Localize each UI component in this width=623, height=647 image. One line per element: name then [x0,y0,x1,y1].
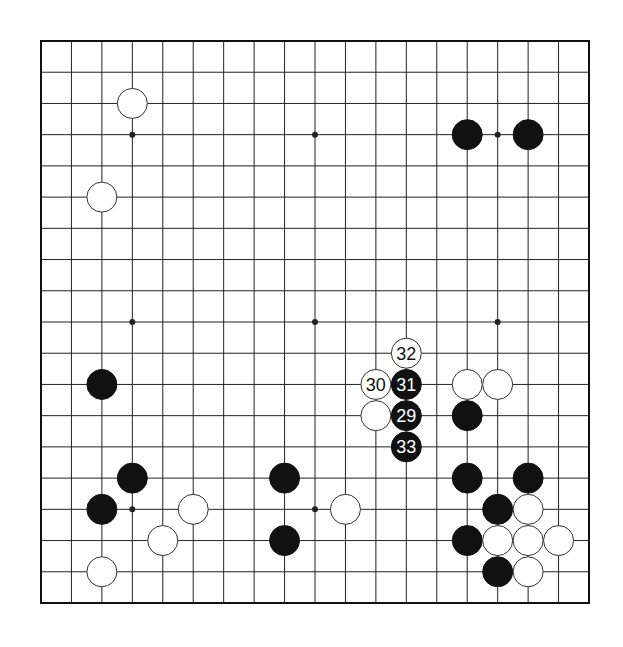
stone-circle [330,494,360,524]
stone-circle [452,369,482,399]
stone-circle [483,369,513,399]
stone-circle [148,526,178,556]
stone-circle [513,557,543,587]
star-point [129,132,135,138]
move-number-label: 32 [396,344,416,364]
stone-circle [452,401,482,431]
black-stone: 33 [391,432,421,462]
stone-circle [87,557,117,587]
stone-circle [452,526,482,556]
white-stone [483,369,513,399]
stone-circle [117,88,147,118]
star-point [129,506,135,512]
star-point [495,319,501,325]
black-stone: 29 [391,401,421,431]
stone-circle [513,526,543,556]
black-stone [87,369,117,399]
go-board: 3230312933 [0,0,623,647]
white-stone [513,494,543,524]
black-stone [513,120,543,150]
stone-circle [483,494,513,524]
black-stone [452,401,482,431]
star-point [312,506,318,512]
stone-circle [513,463,543,493]
move-number-label: 33 [396,437,416,457]
stone-circle [87,369,117,399]
white-stone: 30 [361,369,391,399]
star-point [129,319,135,325]
black-stone [483,494,513,524]
white-stone [330,494,360,524]
star-point [495,132,501,138]
stone-circle [270,463,300,493]
stone-circle [452,120,482,150]
star-point [312,132,318,138]
stone-circle [270,526,300,556]
white-stone [452,369,482,399]
white-stone [513,557,543,587]
stone-circle [483,557,513,587]
move-number-label: 31 [396,375,416,395]
white-stone: 32 [391,338,421,368]
black-stone [513,463,543,493]
black-stone [452,463,482,493]
black-stone [270,463,300,493]
stone-circle [361,401,391,431]
black-stone [452,120,482,150]
white-stone [148,526,178,556]
move-number-label: 30 [366,375,386,395]
white-stone [87,557,117,587]
stone-circle [87,182,117,212]
stone-circle [117,463,147,493]
stone-circle [483,526,513,556]
stone-circle [87,494,117,524]
white-stone [483,526,513,556]
white-stone [544,526,574,556]
move-number-label: 29 [396,406,416,426]
black-stone [117,463,147,493]
stone-circle [452,463,482,493]
stone-circle [513,120,543,150]
stone-circle [544,526,574,556]
white-stone [513,526,543,556]
black-stone [87,494,117,524]
black-stone [483,557,513,587]
stone-circle [178,494,208,524]
black-stone [452,526,482,556]
white-stone [178,494,208,524]
star-point [312,319,318,325]
white-stone [117,88,147,118]
white-stone [87,182,117,212]
black-stone: 31 [391,369,421,399]
white-stone [361,401,391,431]
stone-circle [513,494,543,524]
black-stone [270,526,300,556]
